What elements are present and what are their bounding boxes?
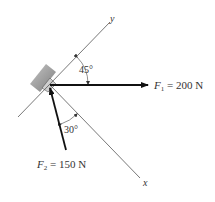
angle-arc-30 [61, 114, 77, 124]
y-axis [18, 22, 110, 117]
force-f1-label: F1 = 200 N [153, 79, 203, 93]
x-axis-label: x [142, 177, 148, 188]
angle-label-45: 45° [79, 64, 93, 75]
angle-label-30: 30° [64, 124, 78, 135]
force-diagram: y x 45° 30° F1 = 200 N F2 = 150 N [0, 0, 215, 202]
force-f2-arrow [50, 88, 66, 150]
y-axis-label: y [109, 13, 115, 24]
force-f2-label: F2 = 150 N [36, 158, 86, 172]
wall-support [30, 64, 56, 92]
